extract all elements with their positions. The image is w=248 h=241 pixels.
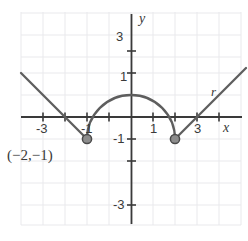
y-tick-label--1: -1: [113, 132, 125, 145]
graph-figure: -3 -1 1 3 3 -1 -3 1 y x r (−2,−1): [0, 0, 248, 241]
x-axis-label: x: [223, 121, 229, 135]
y-tick-label--3: -3: [113, 198, 125, 211]
x-tick-label--1: -1: [81, 122, 93, 135]
curve-r: [21, 68, 246, 139]
y-tick-label-3: 3: [116, 30, 123, 43]
right-ascending-ray: [175, 68, 246, 139]
y-tick-label-1: 1: [120, 70, 127, 83]
left-descending-ray: [21, 73, 87, 139]
x-tick-label-3: 3: [194, 122, 201, 135]
point-annotation: (−2,−1): [7, 148, 53, 163]
axes: [21, 14, 242, 224]
x-tick-label--3: -3: [36, 122, 48, 135]
x-tick-label-1: 1: [150, 122, 157, 135]
y-axis-label: y: [139, 12, 145, 26]
curve-label-r: r: [211, 85, 216, 98]
right-vertex-dot: [170, 134, 179, 143]
